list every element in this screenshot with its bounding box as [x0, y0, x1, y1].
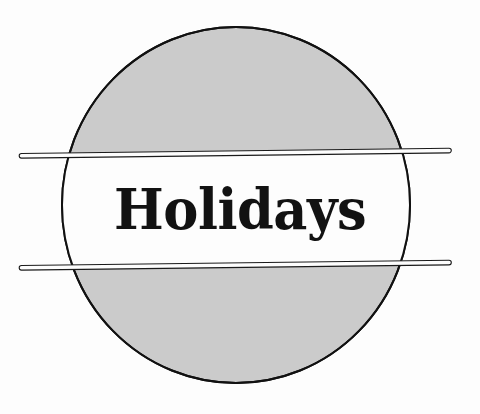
artwork-canvas: Holidays [0, 0, 480, 414]
white-band [50, 149, 430, 269]
white-band-group [50, 149, 430, 269]
holidays-emblem-graphic [0, 0, 480, 414]
